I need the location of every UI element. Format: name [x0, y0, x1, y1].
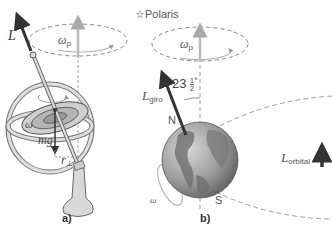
diagram-canvas: [0, 0, 332, 233]
label-precession-b: ωp: [180, 37, 193, 52]
earth-figure: [152, 27, 332, 219]
label-angular-momentum-a: L: [8, 28, 16, 44]
tilt-whole: 23: [172, 76, 186, 91]
label-precession-a: ωp: [58, 33, 71, 48]
orbit-path-upper: [220, 96, 332, 126]
orbit-path-lower: [216, 192, 332, 219]
label-spin-a: ω: [25, 118, 33, 130]
angular-momentum-vector-a: [19, 20, 31, 51]
label-north: N: [168, 114, 176, 126]
lever-arm-subscript: ⊥: [66, 159, 73, 168]
panel-label-a: a): [62, 212, 72, 224]
star-icon: ☆: [135, 8, 145, 20]
polaris-name: Polaris: [145, 8, 179, 20]
panel-label-b: b): [200, 212, 210, 224]
label-weight: mg: [38, 133, 53, 148]
lorbital-subscript: orbital: [288, 157, 310, 166]
precession-subscript-a: p: [66, 39, 70, 48]
label-lever-arm: r⊥: [61, 153, 73, 168]
polaris-label: ☆Polaris: [135, 8, 179, 21]
tilt-unit: °: [194, 76, 198, 86]
label-south: S: [215, 194, 222, 206]
tilt-denominator: 2: [190, 85, 194, 92]
precession-subscript-b: p: [188, 43, 192, 52]
label-tilt-angle: 23 1 2 °: [172, 76, 198, 92]
label-orbital-angular-momentum: Lorbital: [281, 150, 310, 166]
lgiro-subscript: giro: [149, 95, 162, 104]
label-spin-angular-momentum: Lgiro: [142, 88, 163, 104]
gyroscope-stand: [63, 168, 93, 217]
label-spin-b: ω: [150, 195, 156, 205]
